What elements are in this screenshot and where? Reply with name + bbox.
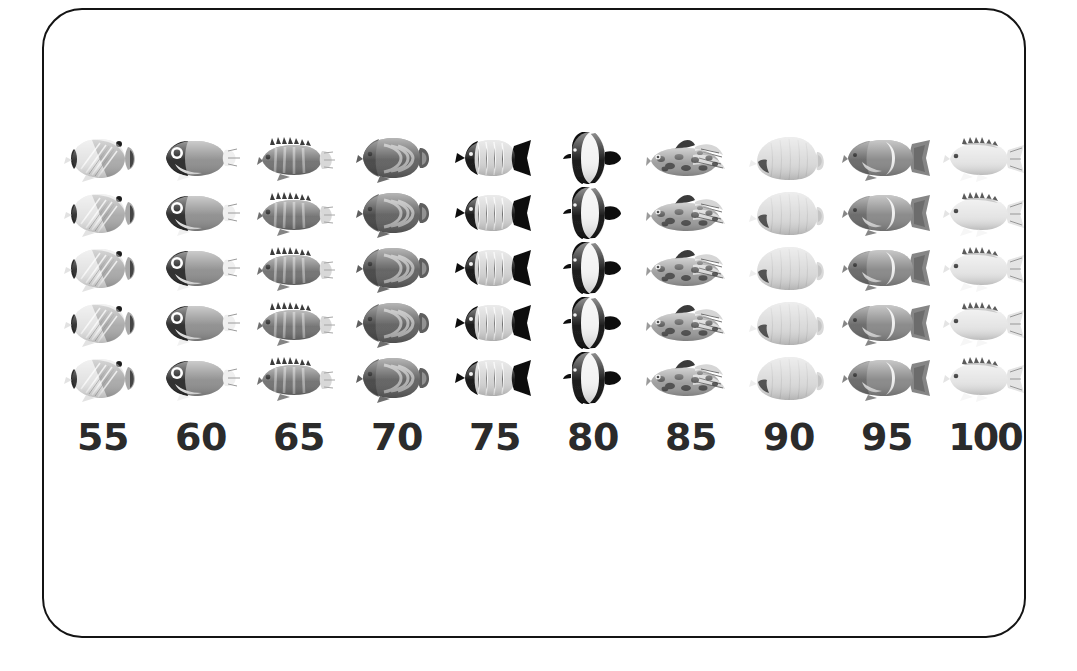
column-label-85: 85 (642, 418, 740, 456)
fish-icon (250, 130, 348, 186)
fish-icon (152, 185, 250, 241)
pictograph-column-55: 55 (54, 8, 152, 638)
pictograph-column-70: 70 (348, 8, 446, 638)
pictograph-column-75: 75 (446, 8, 544, 638)
fish-icon (642, 240, 740, 296)
fish-icon (544, 240, 642, 296)
fish-icon (54, 350, 152, 406)
fish-icon (936, 350, 1034, 406)
fish-icon (152, 130, 250, 186)
fish-icon (544, 185, 642, 241)
fish-icon (348, 185, 446, 241)
column-label-95: 95 (838, 418, 936, 456)
fish-icon (936, 240, 1034, 296)
fish-icon (54, 130, 152, 186)
pictograph-column-95: 95 (838, 8, 936, 638)
column-label-90: 90 (740, 418, 838, 456)
fish-icon (544, 295, 642, 351)
column-label-70: 70 (348, 418, 446, 456)
fish-icon (446, 240, 544, 296)
fish-icon (936, 295, 1034, 351)
column-label-55: 55 (54, 418, 152, 456)
fish-icon (642, 295, 740, 351)
fish-icon (152, 350, 250, 406)
fish-icon (642, 350, 740, 406)
fish-icon (642, 185, 740, 241)
pictograph-column-65: 65 (250, 8, 348, 638)
fish-icon (250, 185, 348, 241)
fish-icon (250, 350, 348, 406)
fish-icon (446, 130, 544, 186)
fish-icon (446, 185, 544, 241)
fish-icon (642, 130, 740, 186)
figure-canvas: 556065707580859095100 (0, 0, 1077, 671)
fish-icon (838, 185, 936, 241)
fish-icon (250, 295, 348, 351)
pictograph-column-90: 90 (740, 8, 838, 638)
fish-icon (54, 240, 152, 296)
fish-icon (838, 240, 936, 296)
fish-icon (740, 185, 838, 241)
pictograph-column-60: 60 (152, 8, 250, 638)
fish-icon (348, 240, 446, 296)
fish-icon (544, 350, 642, 406)
fish-icon (936, 185, 1034, 241)
fish-icon (838, 130, 936, 186)
pictograph-column-85: 85 (642, 8, 740, 638)
column-label-60: 60 (152, 418, 250, 456)
column-label-75: 75 (446, 418, 544, 456)
pictograph-column-100: 100 (936, 8, 1034, 638)
fish-icon (250, 240, 348, 296)
fish-icon (54, 185, 152, 241)
pictograph-column-80: 80 (544, 8, 642, 638)
fish-icon (348, 350, 446, 406)
fish-icon (54, 295, 152, 351)
fish-icon (740, 130, 838, 186)
fish-icon (544, 130, 642, 186)
fish-icon (152, 295, 250, 351)
fish-icon (740, 240, 838, 296)
fish-icon (740, 295, 838, 351)
pictograph-grid: 556065707580859095100 (42, 8, 1026, 638)
fish-icon (446, 350, 544, 406)
column-label-65: 65 (250, 418, 348, 456)
fish-icon (936, 130, 1034, 186)
fish-icon (152, 240, 250, 296)
column-label-100: 100 (936, 418, 1034, 456)
fish-icon (348, 295, 446, 351)
fish-icon (348, 130, 446, 186)
fish-icon (446, 295, 544, 351)
fish-icon (838, 295, 936, 351)
fish-icon (838, 350, 936, 406)
fish-icon (740, 350, 838, 406)
column-label-80: 80 (544, 418, 642, 456)
